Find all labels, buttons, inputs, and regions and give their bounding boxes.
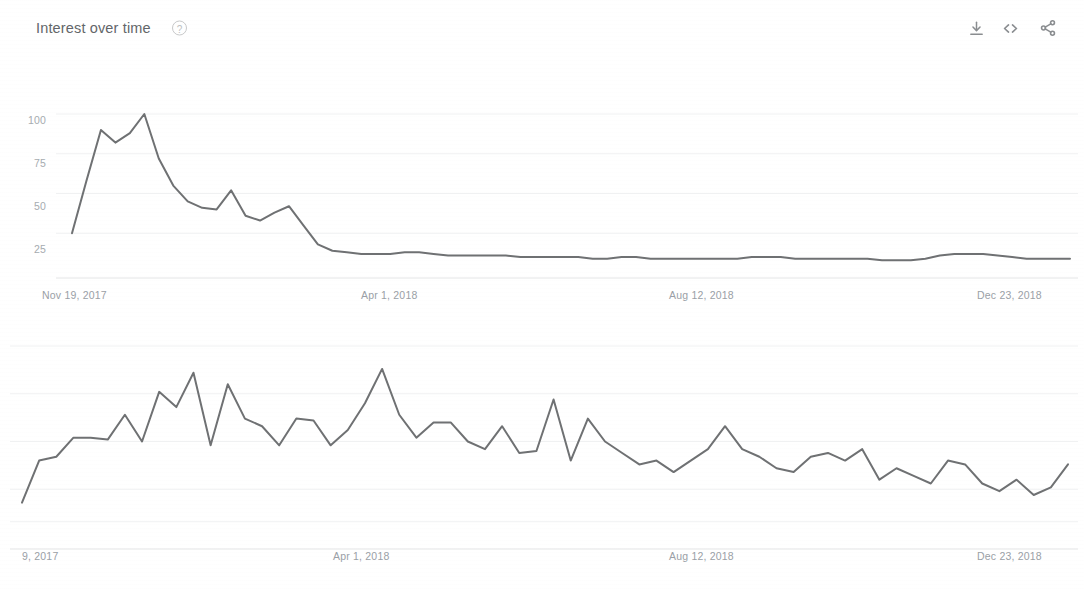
x-axis-tick-label: Aug 12, 2018 — [669, 550, 734, 562]
embed-code-icon[interactable] — [997, 15, 1023, 41]
x-axis-tick-label: Apr 1, 2018 — [333, 550, 390, 562]
chart-plot-area — [0, 330, 1084, 565]
x-axis-top: Nov 19, 2017 Apr 1, 2018 Aug 12, 2018 De… — [0, 289, 1084, 305]
y-axis-label-25: 25 — [22, 243, 46, 255]
x-axis-tick-label: 9, 2017 — [22, 550, 58, 562]
interest-over-time-chart[interactable] — [0, 70, 1084, 295]
y-axis-label-50: 50 — [22, 200, 46, 212]
page-title: Interest over time — [36, 20, 151, 36]
y-axis-label-75: 75 — [22, 157, 46, 169]
x-axis-tick-label: Aug 12, 2018 — [669, 289, 734, 301]
share-icon[interactable] — [1035, 15, 1061, 41]
x-axis-tick-label: Apr 1, 2018 — [361, 289, 418, 301]
panel-header: Interest over time ? — [0, 0, 1084, 58]
x-axis-tick-label: Dec 23, 2018 — [977, 550, 1042, 562]
interest-over-time-chart-zoomed[interactable] — [0, 330, 1084, 565]
chart-plot-area — [0, 70, 1084, 295]
x-axis-tick-label: Dec 23, 2018 — [977, 289, 1042, 301]
x-axis-bottom: 9, 2017 Apr 1, 2018 Aug 12, 2018 Dec 23,… — [0, 550, 1084, 566]
download-icon[interactable] — [963, 15, 989, 41]
question-mark-icon[interactable]: ? — [172, 21, 187, 36]
y-axis-label-100: 100 — [22, 114, 46, 126]
x-axis-tick-label: Nov 19, 2017 — [42, 289, 107, 301]
